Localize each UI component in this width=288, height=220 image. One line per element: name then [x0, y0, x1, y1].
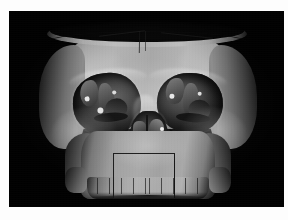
- orbit-right-detail-superior: [164, 77, 184, 104]
- mastoid-process-left: [65, 167, 87, 193]
- viewer-title: 3D volume-rendered CT skull: [0, 0, 1, 1]
- roi-clipping-box[interactable]: [113, 153, 175, 199]
- roi-label: clipping box: [0, 0, 1, 1]
- orbit-left-highlight-a: [84, 96, 89, 101]
- tooth-separation-1: [109, 178, 110, 194]
- sagittal-suture-secondary: [145, 31, 146, 51]
- tooth-separation-9: [197, 178, 198, 194]
- mastoid-process-right: [209, 167, 231, 193]
- sagittal-suture: [138, 31, 139, 53]
- tooth-separation-8: [185, 178, 186, 194]
- roi-right-edge[interactable]: [174, 154, 175, 198]
- page-root: 3D volume-rendered CT skull clipping box: [0, 0, 288, 220]
- tooth-separation-0: [97, 178, 98, 194]
- orbit-left-detail-superior: [79, 80, 99, 107]
- render-canvas[interactable]: [9, 11, 284, 207]
- orbit-right-highlight-a: [169, 94, 174, 99]
- skull-volume: [29, 11, 265, 207]
- orbit-right-highlight-b: [197, 92, 201, 96]
- orbit-left-highlight-b: [112, 90, 116, 94]
